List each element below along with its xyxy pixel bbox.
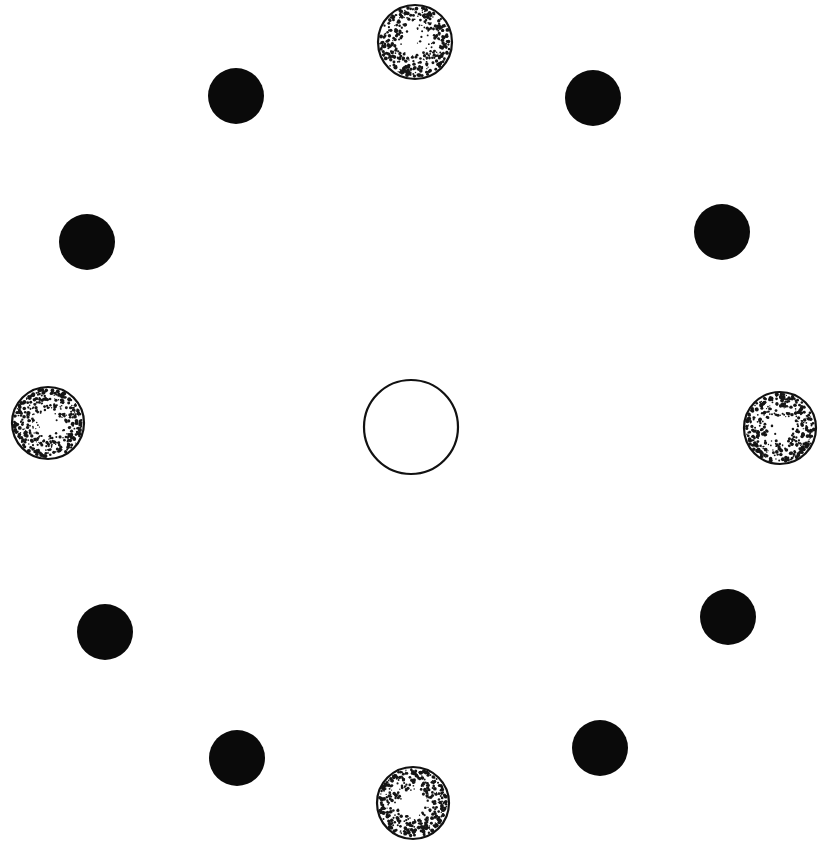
solid-circle-lower-left [209, 730, 265, 786]
circle-arrangement-diagram [0, 0, 825, 855]
stippled-circle-bottom [377, 767, 449, 839]
solid-circle-upper-right [565, 70, 621, 126]
solid-circle-left-upper [59, 214, 115, 270]
solid-circle-left-lower [77, 604, 133, 660]
stippled-circle-right [744, 392, 816, 464]
center-open-circle [364, 380, 458, 474]
open-circle [364, 380, 458, 474]
solid-circle-upper-left [208, 68, 264, 124]
solid-circle-lower-right [572, 720, 628, 776]
stippled-circle-left [12, 387, 84, 459]
solid-circle-right-upper [694, 204, 750, 260]
stippled-circle-top [378, 5, 452, 79]
solid-circle-right-lower [700, 589, 756, 645]
